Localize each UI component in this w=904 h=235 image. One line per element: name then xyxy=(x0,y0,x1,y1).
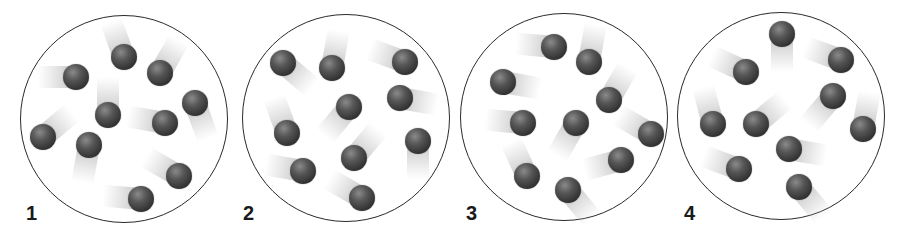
gas-particle xyxy=(576,49,602,75)
gas-particle xyxy=(341,145,367,171)
gas-particle-diagram: 1234 xyxy=(0,0,904,235)
gas-particle xyxy=(850,116,876,142)
gas-particle xyxy=(510,110,536,136)
gas-particle xyxy=(820,83,846,109)
gas-particle xyxy=(152,110,178,136)
gas-particle xyxy=(726,156,752,182)
gas-particle xyxy=(514,163,540,189)
gas-particle xyxy=(166,163,192,189)
gas-particle xyxy=(769,21,795,47)
gas-particle xyxy=(95,102,121,128)
gas-particle xyxy=(290,158,316,184)
gas-particle xyxy=(270,50,296,76)
gas-particle xyxy=(638,121,664,147)
gas-particle xyxy=(743,111,769,137)
gas-particle xyxy=(387,85,413,111)
container-label: 2 xyxy=(243,203,254,223)
gas-particle xyxy=(111,44,137,70)
gas-particle xyxy=(563,110,589,136)
gas-particle xyxy=(76,132,102,158)
container-label: 3 xyxy=(466,203,477,223)
gas-particle xyxy=(147,60,173,86)
gas-particle xyxy=(274,120,300,146)
gas-particle xyxy=(555,177,581,203)
gas-particle xyxy=(319,55,345,81)
gas-particle xyxy=(700,111,726,137)
gas-particle xyxy=(786,174,812,200)
gas-particle xyxy=(128,186,154,212)
container-label: 1 xyxy=(26,203,37,223)
gas-particle xyxy=(63,64,89,90)
gas-particle xyxy=(608,147,634,173)
gas-particle xyxy=(30,124,56,150)
gas-particle xyxy=(349,185,375,211)
gas-particle xyxy=(733,59,759,85)
gas-particle xyxy=(541,34,567,60)
gas-particle xyxy=(182,90,208,116)
gas-particle xyxy=(828,47,854,73)
gas-particle xyxy=(392,49,418,75)
gas-particle xyxy=(596,87,622,113)
gas-particle xyxy=(490,69,516,95)
gas-particle xyxy=(405,128,431,154)
container-label: 4 xyxy=(684,203,695,223)
gas-particle xyxy=(336,94,362,120)
gas-particle xyxy=(776,136,802,162)
